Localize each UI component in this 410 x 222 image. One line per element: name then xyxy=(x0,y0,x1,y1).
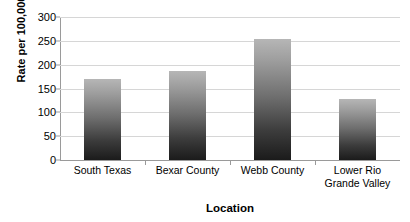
bar xyxy=(169,71,206,160)
y-axis-tick-label: 0 xyxy=(22,155,56,166)
y-axis-tick-label: 200 xyxy=(22,59,56,70)
bar xyxy=(254,39,291,160)
x-axis-tick-label: Lower Rio Grande Valley xyxy=(315,164,400,190)
y-axis-tick-label: 150 xyxy=(22,83,56,94)
bars-group xyxy=(60,17,400,160)
bar-chart: Rate per 100,000 050100150200250300 Sout… xyxy=(0,0,410,222)
y-axis-tick-mark xyxy=(56,40,60,41)
y-axis-tick-label: 100 xyxy=(22,107,56,118)
plot-area xyxy=(60,17,400,160)
bar xyxy=(84,79,121,160)
y-axis-tick-labels: 050100150200250300 xyxy=(22,0,56,222)
x-axis-tick-labels: South TexasBexar CountyWebb CountyLower … xyxy=(60,164,400,196)
y-axis-tick-label: 250 xyxy=(22,35,56,46)
y-axis-tick-mark xyxy=(56,160,60,161)
y-axis-tick-mark xyxy=(56,64,60,65)
bar xyxy=(339,99,376,160)
y-axis-tick-mark xyxy=(56,17,60,18)
y-axis-tick-mark xyxy=(56,112,60,113)
y-axis-tick-mark xyxy=(56,136,60,137)
y-axis-tick-label: 300 xyxy=(22,12,56,23)
x-axis-tick-label: South Texas xyxy=(60,164,145,177)
x-axis-tick-label: Bexar County xyxy=(145,164,230,177)
y-axis-tick-mark xyxy=(56,88,60,89)
y-axis-tick-label: 50 xyxy=(22,131,56,142)
x-axis-title: Location xyxy=(60,201,400,215)
x-axis-tick-label: Webb County xyxy=(230,164,315,177)
